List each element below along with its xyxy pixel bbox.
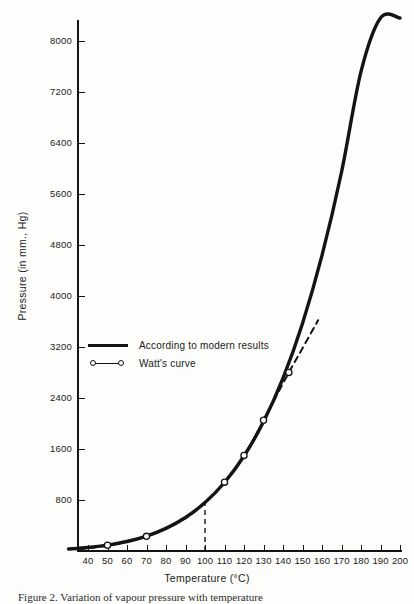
legend: According to modern results Watt's curve bbox=[84, 336, 269, 372]
watt-data-point bbox=[221, 479, 227, 485]
legend-item-watt: Watt's curve bbox=[84, 354, 269, 372]
watt-data-point bbox=[260, 417, 266, 423]
watt-curve-solid-mid bbox=[205, 420, 264, 502]
legend-label-watt: Watt's curve bbox=[139, 358, 196, 369]
legend-swatch-solid-line-icon bbox=[84, 338, 132, 352]
watt-data-point bbox=[143, 533, 149, 539]
watt-curve-dashed-low bbox=[78, 503, 205, 550]
watt-data-point bbox=[241, 452, 247, 458]
figure-caption: Figure 2. Variation of vapour pressure w… bbox=[18, 591, 398, 603]
watt-data-point bbox=[286, 369, 292, 375]
watt-curve-markers bbox=[104, 369, 292, 548]
legend-item-modern: According to modern results bbox=[84, 336, 269, 354]
plot-area bbox=[0, 0, 414, 604]
figure-container: 8001600240032004000480056006400720080008… bbox=[0, 0, 414, 604]
watt-data-point bbox=[104, 542, 110, 548]
legend-swatch-circle-line-icon bbox=[84, 356, 132, 370]
legend-label-modern: According to modern results bbox=[139, 340, 269, 351]
